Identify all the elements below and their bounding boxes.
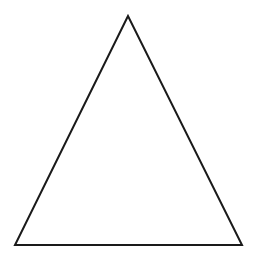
triangle-shape xyxy=(15,16,242,245)
triangle-diagram xyxy=(0,0,268,254)
